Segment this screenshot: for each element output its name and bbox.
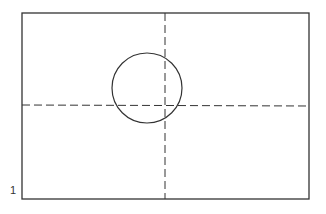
figure-label: 1 (10, 184, 16, 196)
diagram-canvas (0, 0, 326, 214)
horizontal-dashed-axis (22, 105, 309, 106)
circle (112, 53, 182, 123)
